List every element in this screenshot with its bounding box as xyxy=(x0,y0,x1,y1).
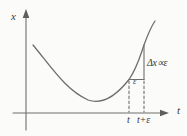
tick-label-t-plus-epsilon: t+ε xyxy=(137,115,150,125)
epsilon-annotation: ε xyxy=(133,77,136,86)
function-curve xyxy=(33,21,155,101)
x-axis-arrowhead-icon xyxy=(160,110,169,117)
derivative-increment-diagram: x t Δx∝ε ε t t+ε xyxy=(0,0,187,136)
diagram-canvas xyxy=(0,0,187,136)
x-axis-label: t xyxy=(177,105,180,116)
tick-label-t: t xyxy=(127,115,130,125)
y-axis-label: x xyxy=(11,11,16,22)
y-axis-arrowhead-icon xyxy=(23,9,30,18)
delta-x-annotation: Δx∝ε xyxy=(147,58,167,68)
